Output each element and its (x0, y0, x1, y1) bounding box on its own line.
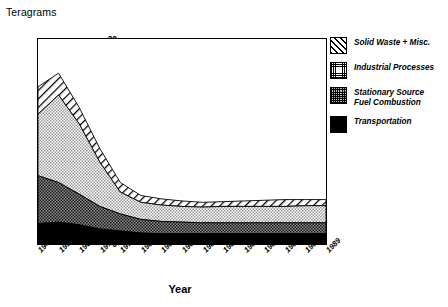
legend-item-label-line1: Solid Waste + Misc. (354, 38, 430, 48)
x-axis-title: Year (0, 283, 360, 295)
legend-item: Industrial Processes (330, 61, 445, 79)
legend-item-label-line1: Transportation (354, 117, 412, 127)
dark-checker-swatch (330, 87, 347, 104)
light-checker-swatch (330, 62, 347, 79)
legend-item: Stationary SourceFuel Combustion (330, 86, 445, 108)
solid-black-swatch (330, 116, 347, 133)
legend-item: Solid Waste + Misc. (330, 36, 445, 54)
y-axis-title: Teragrams (6, 6, 57, 18)
legend-item-label: Stationary SourceFuel Combustion (354, 86, 424, 108)
stacked-area-svg (38, 39, 326, 244)
diagonal-hatch-swatch (330, 37, 347, 54)
legend-item-label-line2: Fuel Combustion (354, 98, 424, 108)
chart-container: Teragrams Year 051015202530 (0, 0, 448, 307)
legend-item-label: Transportation (354, 115, 412, 127)
legend-item-label: Solid Waste + Misc. (354, 36, 430, 48)
legend-item: Transportation (330, 115, 445, 133)
legend-item-label-line1: Stationary Source (354, 88, 424, 98)
legend-item-label-line1: Industrial Processes (354, 63, 434, 73)
legend-item-label: Industrial Processes (354, 61, 434, 73)
chart-legend: Solid Waste + Misc.Industrial ProcessesS… (330, 36, 445, 140)
plot-area (37, 38, 327, 245)
